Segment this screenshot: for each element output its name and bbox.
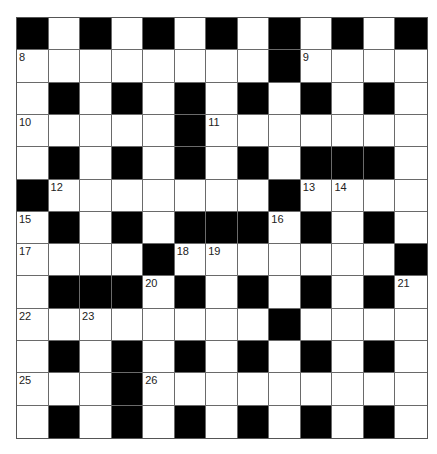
crossword-cell[interactable]	[80, 147, 112, 179]
crossword-cell[interactable]	[238, 50, 270, 82]
crossword-cell[interactable]	[269, 276, 301, 308]
crossword-cell[interactable]	[238, 244, 270, 276]
crossword-cell[interactable]	[206, 341, 238, 373]
crossword-cell[interactable]	[269, 115, 301, 147]
crossword-cell[interactable]	[364, 244, 396, 276]
crossword-cell[interactable]: 14	[332, 180, 364, 212]
crossword-cell[interactable]	[80, 180, 112, 212]
crossword-cell[interactable]	[80, 406, 112, 438]
crossword-cell[interactable]	[112, 115, 144, 147]
crossword-cell[interactable]	[301, 244, 333, 276]
crossword-cell[interactable]	[269, 373, 301, 405]
crossword-cell[interactable]	[80, 244, 112, 276]
crossword-cell[interactable]	[175, 50, 207, 82]
crossword-cell[interactable]	[175, 373, 207, 405]
crossword-cell[interactable]	[332, 276, 364, 308]
crossword-cell[interactable]	[143, 180, 175, 212]
crossword-cell[interactable]	[395, 147, 427, 179]
crossword-cell[interactable]	[206, 309, 238, 341]
crossword-cell[interactable]	[80, 50, 112, 82]
crossword-cell[interactable]	[17, 406, 49, 438]
crossword-cell[interactable]: 9	[301, 50, 333, 82]
crossword-cell[interactable]	[80, 115, 112, 147]
crossword-cell[interactable]	[332, 50, 364, 82]
crossword-cell[interactable]	[112, 244, 144, 276]
crossword-cell[interactable]: 25	[17, 373, 49, 405]
crossword-cell[interactable]	[17, 83, 49, 115]
crossword-cell[interactable]	[269, 406, 301, 438]
crossword-cell[interactable]	[49, 309, 81, 341]
crossword-cell[interactable]: 16	[269, 212, 301, 244]
crossword-cell[interactable]: 15	[17, 212, 49, 244]
crossword-cell[interactable]	[80, 373, 112, 405]
crossword-cell[interactable]	[143, 212, 175, 244]
crossword-cell[interactable]	[206, 83, 238, 115]
crossword-cell[interactable]	[238, 309, 270, 341]
crossword-cell[interactable]	[395, 50, 427, 82]
crossword-cell[interactable]	[49, 373, 81, 405]
crossword-cell[interactable]	[364, 115, 396, 147]
crossword-cell[interactable]	[49, 18, 81, 50]
crossword-cell[interactable]	[364, 309, 396, 341]
crossword-cell[interactable]	[269, 83, 301, 115]
crossword-cell[interactable]	[238, 115, 270, 147]
crossword-cell[interactable]	[395, 115, 427, 147]
crossword-cell[interactable]	[49, 244, 81, 276]
crossword-cell[interactable]	[143, 406, 175, 438]
crossword-cell[interactable]: 22	[17, 309, 49, 341]
crossword-cell[interactable]	[49, 50, 81, 82]
crossword-cell[interactable]	[143, 83, 175, 115]
crossword-cell[interactable]	[112, 18, 144, 50]
crossword-cell[interactable]	[301, 373, 333, 405]
crossword-cell[interactable]: 11	[206, 115, 238, 147]
crossword-cell[interactable]	[49, 115, 81, 147]
crossword-cell[interactable]	[395, 212, 427, 244]
crossword-cell[interactable]	[206, 276, 238, 308]
crossword-cell[interactable]	[206, 180, 238, 212]
crossword-cell[interactable]: 18	[175, 244, 207, 276]
crossword-cell[interactable]	[301, 115, 333, 147]
crossword-cell[interactable]	[364, 50, 396, 82]
crossword-cell[interactable]	[143, 147, 175, 179]
crossword-cell[interactable]	[175, 18, 207, 50]
crossword-cell[interactable]: 19	[206, 244, 238, 276]
crossword-cell[interactable]	[143, 341, 175, 373]
crossword-cell[interactable]: 26	[143, 373, 175, 405]
crossword-cell[interactable]: 20	[143, 276, 175, 308]
crossword-cell[interactable]: 21	[395, 276, 427, 308]
crossword-cell[interactable]	[206, 373, 238, 405]
crossword-cell[interactable]	[206, 50, 238, 82]
crossword-cell[interactable]: 13	[301, 180, 333, 212]
crossword-cell[interactable]	[395, 406, 427, 438]
crossword-cell[interactable]: 17	[17, 244, 49, 276]
crossword-cell[interactable]: 8	[17, 50, 49, 82]
crossword-cell[interactable]	[332, 83, 364, 115]
crossword-cell[interactable]	[238, 18, 270, 50]
crossword-cell[interactable]	[206, 147, 238, 179]
crossword-cell[interactable]	[206, 406, 238, 438]
crossword-cell[interactable]	[332, 373, 364, 405]
crossword-cell[interactable]	[238, 373, 270, 405]
crossword-cell[interactable]	[301, 18, 333, 50]
crossword-cell[interactable]	[269, 244, 301, 276]
crossword-cell[interactable]	[175, 180, 207, 212]
crossword-cell[interactable]	[332, 244, 364, 276]
crossword-cell[interactable]	[332, 212, 364, 244]
crossword-cell[interactable]	[269, 341, 301, 373]
crossword-cell[interactable]	[112, 50, 144, 82]
crossword-cell[interactable]: 12	[49, 180, 81, 212]
crossword-cell[interactable]	[143, 309, 175, 341]
crossword-cell[interactable]	[143, 115, 175, 147]
crossword-cell[interactable]	[238, 180, 270, 212]
crossword-cell[interactable]	[17, 147, 49, 179]
crossword-cell[interactable]	[17, 341, 49, 373]
crossword-cell[interactable]	[395, 341, 427, 373]
crossword-cell[interactable]	[364, 373, 396, 405]
crossword-cell[interactable]	[332, 309, 364, 341]
crossword-cell[interactable]	[364, 180, 396, 212]
crossword-cell[interactable]	[269, 147, 301, 179]
crossword-cell[interactable]	[143, 50, 175, 82]
crossword-cell[interactable]	[80, 341, 112, 373]
crossword-cell[interactable]	[332, 115, 364, 147]
crossword-cell[interactable]	[17, 276, 49, 308]
